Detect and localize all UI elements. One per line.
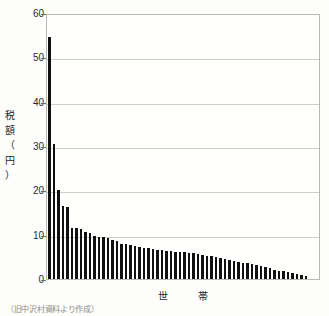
bar (201, 255, 204, 279)
y-axis-title-char-3: （ (2, 138, 18, 153)
bar (152, 249, 155, 279)
bar (233, 261, 236, 279)
bar (255, 265, 258, 279)
bar (282, 271, 285, 279)
bar (66, 207, 69, 279)
bar (278, 271, 281, 279)
bar (219, 258, 222, 279)
bar (125, 244, 128, 279)
bar (269, 268, 272, 279)
bar (251, 264, 254, 279)
bar (98, 237, 101, 279)
y-axis-title: 税 額 （ 円 ） (2, 108, 18, 183)
bar (305, 276, 308, 279)
bar (48, 37, 51, 279)
source-caption: （旧中沢村資料より作成） (6, 303, 98, 314)
bar (206, 256, 209, 280)
bar (242, 263, 245, 279)
bar (71, 228, 74, 279)
y-axis-title-char-1: 税 (2, 108, 18, 123)
bar (264, 267, 267, 279)
bar (246, 263, 249, 279)
y-axis-title-char-5: ） (2, 168, 18, 183)
bar (296, 274, 299, 279)
bar (260, 266, 263, 279)
chart-figure: 税 額 （ 円 ） 6050403020100 世 帯 （旧中沢村資料より作成） (0, 0, 329, 316)
bar (143, 248, 146, 279)
bar (93, 236, 96, 279)
bar (116, 241, 119, 279)
bar (156, 250, 159, 279)
bar (161, 250, 164, 279)
bar (165, 251, 168, 279)
bar (215, 257, 218, 279)
bar (57, 190, 60, 279)
bar (174, 252, 177, 279)
bar (170, 251, 173, 279)
bar (111, 240, 114, 279)
bar (80, 229, 83, 279)
bar (120, 244, 123, 279)
bar (129, 245, 132, 279)
bar (210, 256, 213, 279)
bar (75, 228, 78, 279)
bar (237, 262, 240, 279)
x-axis-title: 世 帯 (46, 288, 320, 303)
bar (53, 144, 56, 279)
bar (188, 253, 191, 279)
bar (300, 275, 303, 279)
bar (147, 248, 150, 279)
bar (192, 253, 195, 279)
bar (84, 232, 87, 279)
y-axis-tick-labels: 6050403020100 (18, 0, 44, 316)
bar (134, 246, 137, 279)
bar (138, 247, 141, 279)
bar (179, 252, 182, 279)
y-axis-title-char-4: 円 (2, 153, 18, 168)
y-axis-tick-mark (41, 280, 46, 281)
bar (287, 272, 290, 279)
bar (197, 254, 200, 279)
bar (102, 237, 105, 279)
bar (273, 270, 276, 279)
bar (62, 206, 65, 279)
bar (89, 233, 92, 279)
bar (224, 259, 227, 279)
bar-series (47, 15, 319, 279)
plot-area (46, 14, 320, 280)
bar (228, 260, 231, 279)
y-axis-title-char-2: 額 (2, 123, 18, 138)
bar (107, 238, 110, 279)
bar (291, 273, 294, 279)
bar (183, 252, 186, 279)
